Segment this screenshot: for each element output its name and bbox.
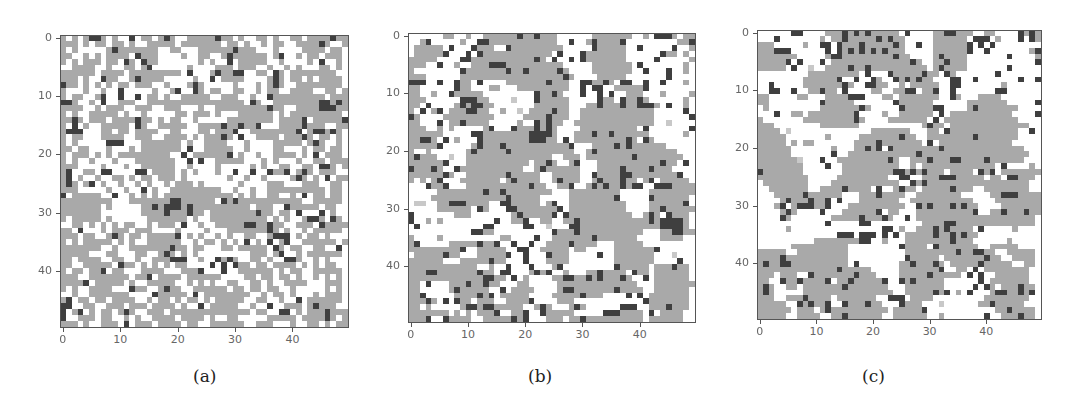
y-tick-mark [56, 96, 60, 97]
y-tick-mark [56, 271, 60, 272]
y-tick-mark [56, 38, 60, 39]
y-tick-label: 40 [38, 264, 52, 277]
y-tick-mark [404, 151, 408, 152]
x-tick-label: 10 [461, 328, 475, 341]
y-tick-label: 30 [38, 206, 52, 219]
x-tick-mark [525, 323, 526, 327]
heatmap-grid [60, 35, 349, 328]
x-tick-mark [63, 328, 64, 332]
x-tick-mark [873, 320, 874, 324]
y-tick-label: 40 [735, 256, 749, 269]
y-tick-mark [753, 90, 757, 91]
x-tick-label: 30 [923, 325, 937, 338]
panel-caption: (b) [528, 366, 552, 386]
panel-caption: (a) [193, 366, 216, 386]
heatmap-grid [757, 30, 1042, 320]
y-tick-mark [753, 148, 757, 149]
y-tick-label: 20 [735, 141, 749, 154]
x-tick-label: 10 [809, 325, 823, 338]
x-tick-mark [120, 328, 121, 332]
x-tick-label: 30 [575, 328, 589, 341]
x-tick-mark [582, 323, 583, 327]
y-tick-mark [56, 154, 60, 155]
y-tick-label: 0 [742, 26, 749, 39]
y-tick-label: 30 [735, 199, 749, 212]
x-tick-label: 20 [518, 328, 532, 341]
x-tick-label: 40 [633, 328, 647, 341]
y-tick-mark [753, 33, 757, 34]
x-tick-mark [640, 323, 641, 327]
y-tick-label: 40 [386, 259, 400, 272]
x-tick-mark [235, 328, 236, 332]
x-tick-label: 0 [59, 333, 66, 346]
y-tick-mark [56, 213, 60, 214]
y-tick-label: 20 [386, 144, 400, 157]
y-tick-mark [404, 36, 408, 37]
x-tick-label: 0 [756, 325, 763, 338]
y-tick-mark [404, 209, 408, 210]
y-tick-mark [404, 93, 408, 94]
y-tick-mark [404, 266, 408, 267]
x-tick-label: 20 [866, 325, 880, 338]
y-tick-label: 0 [393, 29, 400, 42]
x-tick-mark [986, 320, 987, 324]
y-tick-mark [753, 263, 757, 264]
panel-caption: (c) [862, 366, 885, 386]
x-tick-mark [930, 320, 931, 324]
heatmap-grid [408, 33, 696, 323]
x-tick-mark [760, 320, 761, 324]
y-tick-label: 10 [38, 89, 52, 102]
y-tick-label: 0 [45, 31, 52, 44]
x-tick-label: 30 [228, 333, 242, 346]
x-tick-label: 0 [407, 328, 414, 341]
x-tick-mark [292, 328, 293, 332]
x-tick-mark [411, 323, 412, 327]
y-tick-label: 30 [386, 202, 400, 215]
x-tick-mark [816, 320, 817, 324]
x-tick-mark [178, 328, 179, 332]
x-tick-mark [468, 323, 469, 327]
y-tick-mark [753, 206, 757, 207]
y-tick-label: 20 [38, 147, 52, 160]
y-tick-label: 10 [386, 86, 400, 99]
y-tick-label: 10 [735, 83, 749, 96]
x-tick-label: 40 [285, 333, 299, 346]
x-tick-label: 10 [113, 333, 127, 346]
x-tick-label: 20 [171, 333, 185, 346]
x-tick-label: 40 [979, 325, 993, 338]
